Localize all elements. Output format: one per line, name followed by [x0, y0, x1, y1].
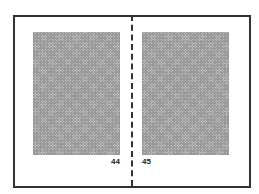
right-page-text-block: [142, 32, 229, 155]
right-page-number: 45: [142, 157, 151, 166]
gutter-fold-line: [131, 15, 133, 186]
left-page-text-block: [33, 32, 120, 155]
left-page-number: 44: [111, 157, 120, 166]
